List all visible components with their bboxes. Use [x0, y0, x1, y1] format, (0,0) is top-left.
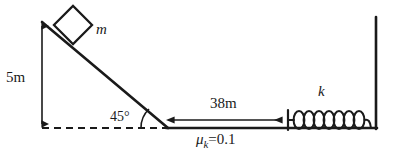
distance-label: 38m — [210, 96, 237, 111]
mass-label: m — [96, 22, 107, 37]
spring-constant-label: k — [318, 84, 325, 99]
friction-symbol: μ — [196, 131, 204, 147]
physics-diagram: 5m m 45° 38m k μk=0.1 — [0, 0, 393, 167]
incline-surface — [42, 22, 168, 128]
friction-value: =0.1 — [208, 131, 235, 147]
angle-label: 45° — [110, 110, 130, 124]
friction-coefficient-label: μk=0.1 — [196, 132, 236, 150]
height-label: 5m — [6, 70, 25, 85]
spring — [288, 111, 371, 129]
